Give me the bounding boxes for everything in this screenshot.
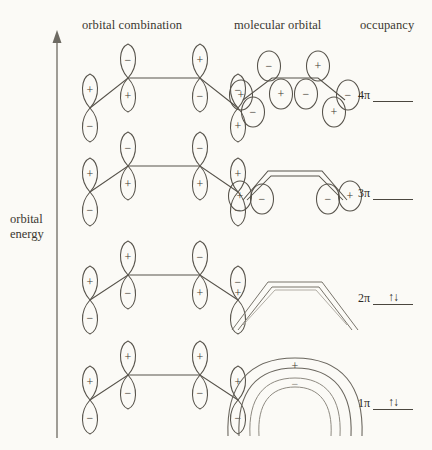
svg-text:−: −	[325, 192, 332, 206]
svg-text:+: +	[238, 88, 245, 102]
svg-text:−: −	[125, 141, 132, 155]
orbital-drawings: + − + − − + − + + − − + + − −	[0, 0, 432, 450]
row-2pi-molecular-orbital	[232, 282, 358, 330]
row-1pi-orbital-combination: + + + + − − − −	[82, 341, 245, 434]
svg-text:+: +	[197, 286, 204, 300]
svg-text:−: −	[197, 141, 204, 155]
svg-text:−: −	[125, 286, 132, 300]
occupancy-label-1pi: 1π	[358, 396, 370, 410]
svg-text:+: +	[197, 177, 204, 191]
svg-text:+: +	[125, 250, 132, 264]
svg-text:+: +	[292, 359, 299, 373]
svg-text:−: −	[292, 377, 299, 391]
svg-text:+: +	[347, 189, 354, 203]
svg-text:+: +	[235, 167, 242, 181]
row-1pi-molecular-orbital: + −	[228, 358, 362, 436]
svg-text:+: +	[278, 87, 285, 101]
svg-text:−: −	[266, 59, 273, 73]
svg-text:+: +	[235, 119, 242, 133]
orbital-diagram: orbital energy orbital combination molec…	[0, 0, 432, 450]
occupancy-slot-3pi[interactable]	[373, 183, 413, 200]
occupancy-electrons-1pi: ↑↓	[373, 396, 413, 408]
occupancy-row-2pi[interactable]: 2π ↑↓	[358, 285, 413, 305]
occupancy-row-1pi[interactable]: 1π ↑↓	[358, 390, 413, 410]
svg-text:−: −	[125, 386, 132, 400]
svg-text:+: +	[197, 350, 204, 364]
svg-text:+: +	[237, 189, 244, 203]
occupancy-label-3pi: 3π	[358, 186, 370, 200]
svg-text:−: −	[250, 105, 257, 119]
svg-text:−: −	[87, 311, 94, 325]
svg-text:−: −	[303, 87, 310, 101]
svg-text:−: −	[345, 88, 352, 102]
occupancy-slot-1pi[interactable]: ↑↓	[373, 393, 413, 410]
svg-text:−: −	[197, 386, 204, 400]
svg-text:+: +	[197, 53, 204, 67]
svg-text:−: −	[197, 89, 204, 103]
svg-text:+: +	[235, 286, 242, 300]
svg-text:−: −	[87, 119, 94, 133]
occupancy-label-4pi: 4π	[358, 88, 370, 102]
row-3pi-molecular-orbital: + − − +	[229, 171, 362, 214]
occupancy-label-2pi: 2π	[358, 291, 370, 305]
svg-text:−: −	[259, 192, 266, 206]
svg-text:+: +	[87, 167, 94, 181]
svg-text:+: +	[125, 350, 132, 364]
row-2pi-orbital-combination: + + − − − − + +	[82, 241, 245, 334]
svg-text:+: +	[125, 89, 132, 103]
svg-text:+: +	[87, 83, 94, 97]
svg-text:+: +	[315, 59, 322, 73]
occupancy-electrons-2pi: ↑↓	[373, 291, 413, 303]
svg-text:−: −	[87, 411, 94, 425]
occupancy-slot-2pi[interactable]: ↑↓	[373, 288, 413, 305]
row-4pi-molecular-orbital: + − − + + − − +	[230, 51, 360, 127]
svg-text:−: −	[125, 53, 132, 67]
svg-text:+: +	[331, 105, 338, 119]
occupancy-row-3pi[interactable]: 3π	[358, 180, 413, 200]
row-3pi-orbital-combination: + − − + − + + −	[82, 132, 245, 226]
occupancy-row-4pi[interactable]: 4π	[358, 82, 413, 102]
svg-text:+: +	[125, 177, 132, 191]
row-4pi-orbital-combination: + − + − − + − +	[82, 44, 245, 142]
svg-text:−: −	[197, 250, 204, 264]
occupancy-slot-4pi[interactable]	[373, 85, 413, 102]
svg-text:−: −	[87, 203, 94, 217]
svg-text:+: +	[87, 275, 94, 289]
svg-text:+: +	[87, 375, 94, 389]
